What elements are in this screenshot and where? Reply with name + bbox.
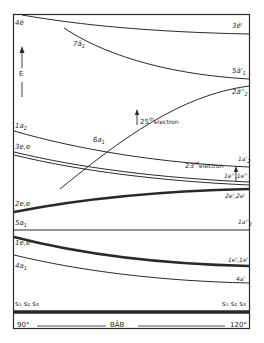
level-1ee: [14, 237, 249, 266]
label-6a1-sub: 1: [102, 139, 105, 145]
electron25-arrow-head-icon: [135, 109, 139, 115]
label-6a1: 6a1: [93, 137, 105, 145]
label-2a2-main: 2ā'': [232, 88, 245, 96]
label-1e-dprime: 1e'',1e'': [224, 173, 248, 179]
label-1a2-prime-sub: 2: [247, 158, 250, 164]
orbital-correlation-diagram: 4ē 7ā1 E 1a2 3e,e 6a1 2e,e 5a1 1e,e 4a1 …: [0, 0, 264, 343]
x-axis-left-label: 90°: [17, 322, 29, 329]
level-7a1: [64, 28, 249, 79]
energy-axis-label: E: [19, 71, 23, 78]
annotation-25th-electron: 25thelectron: [140, 117, 179, 126]
label-1a2-main: 1a: [15, 122, 24, 130]
label-4e: 4ē: [15, 20, 24, 27]
label-2a2-sub: 2: [245, 91, 248, 97]
label-5a1-sub: 1: [24, 222, 27, 228]
label-4a1-main: 4a: [15, 262, 24, 270]
label-1a2-sub: 2: [24, 125, 27, 131]
label-1a2-prime-main: 1a': [238, 155, 247, 162]
level-4e: [22, 15, 249, 34]
label-7a1-sub: 1: [82, 43, 85, 49]
label-1a2: 1a2: [15, 123, 27, 131]
annotation-23rd-electron: 23rdelectron: [185, 161, 224, 170]
level-6a1: [60, 86, 249, 189]
label-7a1: 7ā1: [73, 41, 85, 49]
label-1ee: 1e,e: [15, 240, 30, 247]
e25-word: electron: [154, 118, 179, 125]
label-2a2-dprime: 2ā''2: [232, 89, 248, 97]
label-1a2-prime: 1a'2: [238, 156, 250, 164]
label-4a1: 4a1: [15, 263, 27, 271]
e23-word: electron: [199, 162, 224, 169]
x-axis-center-label: BÂB: [110, 322, 124, 329]
x-axis-right-label: 120°: [230, 322, 247, 329]
label-5a1: 5a1: [15, 220, 27, 228]
label-1a2-dprime-sub: 2: [249, 221, 252, 227]
label-1e-prime: 1e',1e': [228, 257, 248, 263]
label-5a1-prime-main: 5ā': [232, 67, 243, 75]
label-7a1-main: 7ā: [73, 40, 82, 48]
label-6a1-main: 6a: [93, 136, 102, 144]
label-3e-prime: 3ē': [232, 23, 243, 30]
energy-arrow-head-icon: [20, 46, 25, 53]
label-1a2-dprime: 1a''2: [238, 219, 252, 227]
e25-number: 25: [140, 118, 149, 126]
label-5a1-prime-sub: 1: [243, 70, 246, 76]
label-2e-prime: 2e',2e': [225, 193, 245, 199]
label-3ee: 3e,e: [15, 144, 30, 151]
level-2ee: [14, 189, 249, 212]
label-4a1-sub: 1: [24, 265, 27, 271]
label-1a2-dprime-main: 1a'': [238, 218, 249, 225]
label-4a-prime: 4a': [236, 276, 245, 282]
label-5a1-prime: 5ā'1: [232, 68, 246, 76]
label-5a1-main: 5a: [15, 219, 24, 227]
label-2ee: 2e,e: [15, 201, 30, 208]
label-s-right: s₁ s₂ s₃: [222, 301, 246, 308]
label-s-left: s₁ s₂ s₃: [15, 301, 39, 308]
e23-number: 23: [185, 162, 194, 170]
